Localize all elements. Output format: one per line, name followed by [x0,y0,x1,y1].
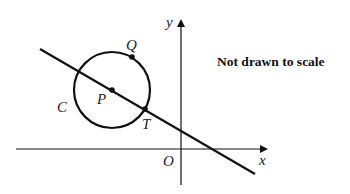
y-axis-label: y [164,14,173,30]
point-q-dot [129,54,135,60]
point-q-label: Q [126,37,137,53]
point-t-label: T [142,116,152,132]
point-t-dot [142,106,148,112]
diagram-svg: y x O Q P T C Not drawn to scale [0,0,350,194]
x-axis-label: x [258,152,266,168]
not-to-scale-note: Not drawn to scale [217,54,325,69]
point-p-label: P [96,91,106,107]
circle-c-label: C [57,99,68,115]
diagram-canvas: y x O Q P T C Not drawn to scale [0,0,350,194]
origin-label: O [163,153,174,169]
point-p-dot [109,87,115,93]
